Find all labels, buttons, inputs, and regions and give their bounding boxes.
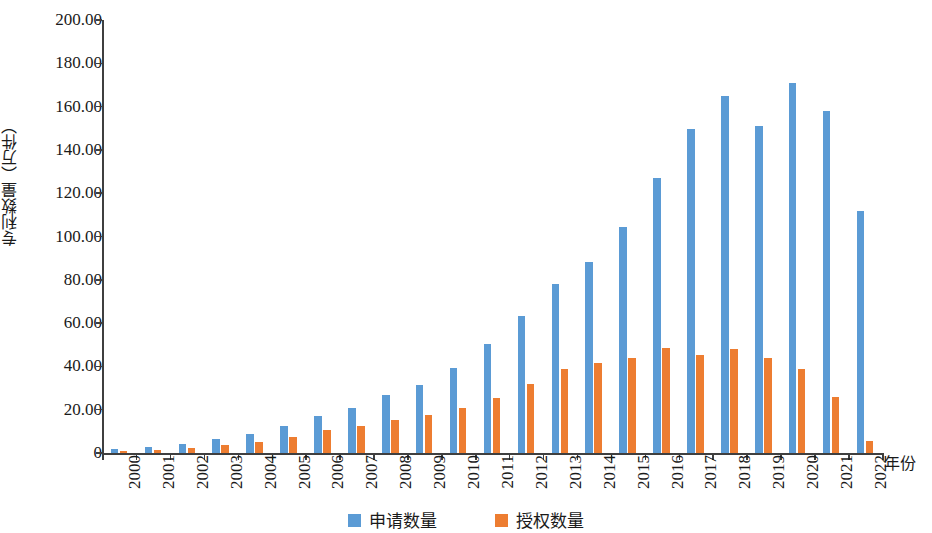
bar-授权数量-2017	[696, 355, 704, 453]
y-tick-mark	[96, 63, 102, 65]
y-tick-label: 120.00	[30, 184, 102, 201]
bar-授权数量-2018	[730, 349, 738, 453]
bar-授权数量-2010	[459, 408, 467, 453]
y-tick-label: 140.00	[30, 141, 102, 158]
x-tick-label: 2020	[804, 455, 821, 489]
bar-申请数量-2020	[789, 83, 797, 453]
bar-申请数量-2019	[755, 126, 763, 453]
y-tick-mark	[96, 236, 102, 238]
legend-item-申请数量[interactable]: 申请数量	[348, 512, 437, 530]
bar-授权数量-2002	[188, 448, 196, 453]
y-tick-label: 160.00	[30, 98, 102, 115]
x-tick-label: 2013	[567, 455, 584, 489]
x-tick-label: 2015	[635, 455, 652, 489]
bar-申请数量-2017	[687, 129, 695, 453]
x-tick-label: 2004	[262, 455, 279, 489]
bar-申请数量-2002	[179, 444, 187, 453]
y-tick-mark	[96, 366, 102, 368]
legend-label: 授权数量	[516, 512, 584, 530]
y-tick-label: 60.00	[30, 314, 102, 331]
bar-申请数量-2007	[348, 408, 356, 453]
legend-swatch-icon	[348, 514, 361, 527]
bar-授权数量-2021	[832, 397, 840, 454]
bar-申请数量-2009	[416, 385, 424, 453]
y-tick-label: 200.00	[30, 11, 102, 28]
bar-授权数量-2011	[493, 398, 501, 453]
y-tick-label: 100.00	[30, 228, 102, 245]
x-tick-label: 2017	[702, 455, 719, 489]
y-axis-title: 专利数量（万件）	[2, 118, 30, 246]
bar-授权数量-2003	[221, 445, 229, 453]
x-tick-label: 2012	[533, 455, 550, 489]
bar-授权数量-2007	[357, 426, 365, 453]
bar-申请数量-2005	[280, 426, 288, 453]
bar-授权数量-2006	[323, 430, 331, 453]
bar-申请数量-2012	[518, 316, 526, 453]
bar-申请数量-2013	[552, 284, 560, 453]
legend-swatch-icon	[495, 514, 508, 527]
x-tick-label: 2007	[363, 455, 380, 489]
bar-授权数量-2005	[289, 437, 297, 453]
x-tick-label: 2018	[736, 455, 753, 489]
y-tick-mark	[96, 192, 102, 194]
bar-申请数量-2000	[111, 449, 119, 453]
patent-bar-chart: 专利数量（万件） 020.0040.0060.0080.00100.00120.…	[0, 0, 932, 533]
bar-申请数量-2004	[246, 434, 254, 453]
plot-area	[102, 20, 882, 453]
y-tick-mark	[96, 322, 102, 324]
x-tick-label: 2011	[499, 455, 516, 488]
bar-授权数量-2012	[527, 384, 535, 453]
x-tick-label: 2000	[126, 455, 143, 489]
x-tick-label: 2010	[465, 455, 482, 489]
x-tick-label: 2006	[329, 455, 346, 489]
bar-授权数量-2009	[425, 415, 433, 453]
bar-授权数量-2013	[561, 369, 569, 453]
x-tick-label: 2021	[838, 455, 855, 489]
y-tick-mark	[96, 409, 102, 411]
bar-授权数量-2004	[255, 442, 263, 453]
bar-授权数量-2016	[662, 348, 670, 453]
bar-授权数量-2008	[391, 420, 399, 453]
y-axis-tick-labels: 020.0040.0060.0080.00100.00120.00140.001…	[30, 0, 102, 533]
x-axis-title: 年份	[884, 455, 916, 473]
bar-申请数量-2001	[145, 447, 153, 453]
legend-label: 申请数量	[369, 512, 437, 530]
bar-申请数量-2011	[484, 344, 492, 453]
bar-申请数量-2010	[450, 368, 458, 453]
x-tick-label: 2008	[397, 455, 414, 489]
bar-申请数量-2008	[382, 395, 390, 453]
x-tick-label: 2003	[228, 455, 245, 489]
chart-legend: 申请数量授权数量	[0, 508, 932, 533]
bar-申请数量-2021	[823, 111, 831, 453]
bar-授权数量-2000	[120, 451, 128, 453]
x-tick-label: 2016	[669, 455, 686, 489]
y-tick-mark	[96, 19, 102, 21]
y-tick-mark	[96, 149, 102, 151]
y-tick-label: 80.00	[30, 271, 102, 288]
y-tick-label: 180.00	[30, 54, 102, 71]
y-axis-line	[102, 20, 104, 454]
x-tick-label: 2009	[431, 455, 448, 489]
bar-授权数量-2015	[628, 358, 636, 453]
y-tick-mark	[96, 106, 102, 108]
legend-item-授权数量[interactable]: 授权数量	[495, 512, 584, 530]
bar-申请数量-2014	[585, 262, 593, 453]
bar-授权数量-2001	[154, 450, 162, 453]
bar-申请数量-2003	[212, 439, 220, 453]
bar-申请数量-2016	[653, 178, 661, 453]
x-axis-tick-labels: 2000200120022003200420052006200720082009…	[102, 455, 892, 515]
y-tick-label: 0	[30, 444, 102, 461]
bar-授权数量-2014	[594, 363, 602, 453]
bar-授权数量-2019	[764, 358, 772, 453]
x-tick-label: 2001	[160, 455, 177, 489]
y-tick-label: 40.00	[30, 357, 102, 374]
y-tick-label: 20.00	[30, 401, 102, 418]
bar-申请数量-2018	[721, 96, 729, 453]
x-tick-label: 2014	[601, 455, 618, 489]
x-tick-label: 2005	[296, 455, 313, 489]
bar-申请数量-2015	[619, 227, 627, 453]
x-tick-label: 2002	[194, 455, 211, 489]
bar-授权数量-2020	[798, 369, 806, 453]
bar-申请数量-2022	[857, 211, 865, 453]
y-tick-mark	[96, 279, 102, 281]
